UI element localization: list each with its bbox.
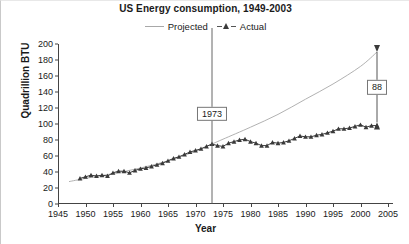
x-tick-label: 1975 [213, 209, 233, 219]
data-point-marker [358, 122, 363, 126]
x-tick-mark [168, 204, 169, 207]
chart-legend: Projected Actual [1, 21, 409, 32]
legend-swatch-actual-triangle [217, 23, 236, 30]
chart-figure: US Energy consumption, 1949-2003 Project… [0, 0, 409, 244]
x-tick-mark [333, 204, 334, 207]
y-tick-label: 180 [38, 55, 53, 65]
y-tick-label: 80 [43, 135, 53, 145]
x-tick-label: 1985 [268, 209, 288, 219]
y-tick-label: 120 [38, 103, 53, 113]
x-tick-mark [86, 204, 87, 207]
chart-title: US Energy consumption, 1949-2003 [1, 3, 409, 14]
y-tick-label: 60 [43, 151, 53, 161]
y-tick-label: 200 [38, 39, 53, 49]
x-tick-mark [388, 204, 389, 207]
data-point-marker [331, 129, 336, 133]
data-point-marker [287, 138, 292, 142]
x-tick-label: 1950 [75, 209, 95, 219]
legend-swatch-projected-line [145, 26, 164, 27]
x-tick-label: 2000 [350, 209, 370, 219]
x-tick-mark [58, 204, 59, 207]
data-point-marker [292, 136, 297, 140]
legend-label-projected: Projected [168, 21, 208, 32]
x-tick-label: 1945 [48, 209, 68, 219]
data-point-marker [248, 139, 253, 143]
year-marker-box: 1973 [197, 106, 227, 120]
plot-area: 020406080100120140160180200 194519501955… [58, 44, 388, 204]
x-tick-label: 1995 [323, 209, 343, 219]
x-tick-mark [196, 204, 197, 207]
x-tick-mark [361, 204, 362, 207]
y-tick-label: 20 [43, 183, 53, 193]
y-tick-label: 0 [48, 199, 53, 209]
legend-item-actual: Actual [217, 21, 266, 32]
y-tick-label: 160 [38, 71, 53, 81]
x-tick-label: 1955 [103, 209, 123, 219]
x-tick-label: 1965 [158, 209, 178, 219]
x-axis-label: Year [1, 223, 409, 234]
gap-arrow-head [374, 45, 380, 52]
y-tick-label: 100 [38, 119, 53, 129]
x-tick-mark [113, 204, 114, 207]
y-tick-label: 140 [38, 87, 53, 97]
x-tick-mark [141, 204, 142, 207]
y-tick-label: 40 [43, 167, 53, 177]
x-tick-label: 2005 [378, 209, 398, 219]
x-tick-mark [306, 204, 307, 207]
x-tick-mark [223, 204, 224, 207]
legend-label-actual: Actual [240, 21, 266, 32]
y-axis-label: Quadrillion BTU [20, 11, 31, 151]
x-tick-mark [251, 204, 252, 207]
x-tick-mark [278, 204, 279, 207]
gap-value-box: 88 [367, 80, 387, 94]
legend-item-projected: Projected [145, 21, 208, 32]
x-tick-label: 1980 [240, 209, 260, 219]
x-tick-label: 1970 [185, 209, 205, 219]
series-layer [58, 44, 388, 204]
x-tick-label: 1990 [295, 209, 315, 219]
x-tick-label: 1960 [130, 209, 150, 219]
